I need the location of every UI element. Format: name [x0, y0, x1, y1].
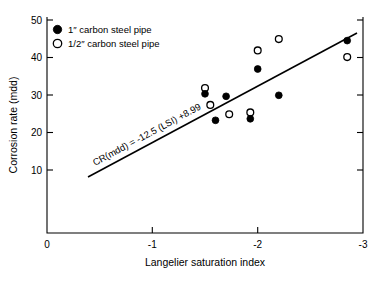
- data-point-open: [275, 36, 282, 43]
- axis-frame: [47, 17, 363, 233]
- x-tick-label-minus1: -1: [148, 239, 157, 250]
- regression-line: [88, 33, 357, 177]
- x-axis-tick-labels: 0 -1 -2 -3: [44, 239, 368, 250]
- x-axis-title: Langelier saturation index: [145, 256, 266, 268]
- data-point-filled: [275, 92, 282, 99]
- data-point-open: [254, 47, 261, 54]
- y-axis-tick-labels: 50 40 30 20 10: [31, 15, 43, 176]
- data-point-filled: [247, 115, 254, 122]
- chart-legend: 1″ carbon steel pipe 1/2″ carbon steel p…: [53, 24, 159, 49]
- x-tick-label-minus2: -2: [253, 239, 262, 250]
- y-tick-label-50: 50: [31, 15, 43, 26]
- chart-figure: 50 40 30 20 10 0 -1 -2 -3 Langelier satu…: [0, 0, 387, 282]
- y-axis-title: Corrosion rate (mdd): [7, 77, 19, 174]
- data-point-filled: [344, 37, 351, 44]
- legend-marker-open-circle-icon: [53, 39, 61, 47]
- x-tick-label-0: 0: [44, 239, 50, 250]
- data-point-filled: [202, 90, 209, 97]
- data-point-open: [226, 111, 233, 118]
- regression-equation-label: CR(mdd) = -12.5 (LSI) +8.99: [91, 101, 203, 168]
- y-tick-label-40: 40: [31, 52, 43, 63]
- data-point-filled: [212, 117, 219, 124]
- y-tick-label-10: 10: [31, 165, 43, 176]
- plot-border: [47, 17, 363, 233]
- x-tick-label-minus3: -3: [359, 239, 368, 250]
- data-point-filled: [223, 93, 230, 100]
- scatter-plot-canvas: 50 40 30 20 10 0 -1 -2 -3 Langelier satu…: [0, 0, 387, 282]
- y-tick-label-20: 20: [31, 127, 43, 138]
- data-point-open: [207, 102, 214, 109]
- data-point-open: [344, 54, 351, 61]
- x-axis-ticks: [152, 227, 257, 233]
- legend-marker-filled-circle-icon: [53, 25, 61, 33]
- y-tick-label-30: 30: [31, 90, 43, 101]
- legend-label-one-inch: 1″ carbon steel pipe: [68, 24, 152, 35]
- series-one-inch-points: [202, 37, 351, 124]
- data-point-open: [247, 109, 254, 116]
- legend-label-half-inch: 1/2″ carbon steel pipe: [68, 38, 160, 49]
- data-point-filled: [254, 66, 261, 73]
